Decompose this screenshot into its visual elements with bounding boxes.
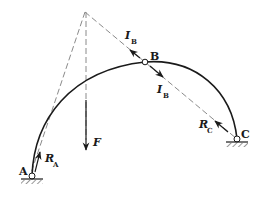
point-C-label: C	[241, 128, 250, 141]
point-B-label: B	[150, 50, 159, 63]
svg-text:I: I	[124, 29, 131, 42]
force-RC-label: R C	[198, 118, 213, 135]
force-IB-lower-arrow	[150, 66, 163, 77]
line-apex-to-A	[30, 12, 85, 176]
svg-text:C: C	[207, 126, 213, 135]
hinge-B	[142, 59, 148, 65]
force-F-label: F	[92, 136, 102, 149]
force-RA-label: R A	[44, 152, 59, 169]
arch-diagram: A B C F R A R C I B I B	[0, 0, 260, 200]
svg-text:B: B	[131, 37, 137, 46]
svg-text:B: B	[163, 91, 169, 100]
force-RC-arrow	[215, 121, 228, 132]
force-RA-arrow	[35, 152, 40, 172]
svg-text:A: A	[52, 160, 59, 169]
force-IB-upper-arrow	[130, 50, 140, 58]
force-IB-upper-label: I B	[124, 29, 137, 46]
force-IB-lower-label: I B	[156, 83, 169, 100]
svg-text:I: I	[156, 83, 163, 96]
point-A-label: A	[18, 165, 28, 178]
